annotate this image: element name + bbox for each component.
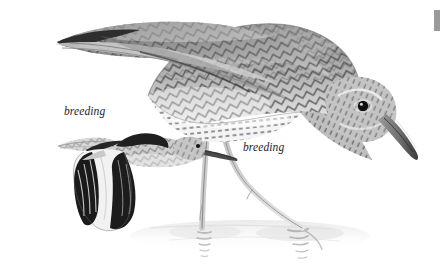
bill	[378, 112, 418, 160]
standing-plumage-label: breeding	[243, 141, 284, 153]
lower-wing	[73, 149, 135, 231]
flying-bird	[55, 132, 238, 231]
fly-eye	[196, 144, 200, 148]
flight-plumage-label: breeding	[64, 105, 105, 117]
illustration-plate: breeding breeding	[0, 0, 440, 271]
bird-illustration	[0, 0, 440, 271]
water-surface	[130, 220, 370, 252]
page-edge-marker	[434, 10, 440, 31]
eye	[358, 101, 368, 111]
